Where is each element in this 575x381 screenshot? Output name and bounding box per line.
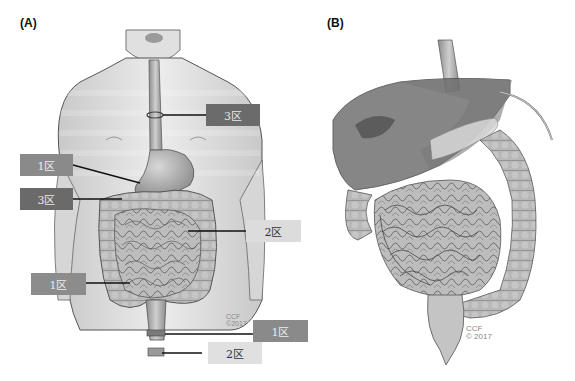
- zone-label-anus: 2区: [208, 342, 262, 364]
- intestines-a: [99, 190, 217, 356]
- organs-b: [333, 40, 552, 365]
- zone-label-colon: 1区: [31, 273, 86, 295]
- zone-label-stomach-upper: 1区: [20, 154, 73, 176]
- watermark-b: CCF © 2017: [466, 325, 492, 341]
- watermark-b-line2: © 2017: [466, 333, 492, 341]
- zone-label-stomach-lower: 3区: [20, 188, 73, 210]
- zone-label-esophagus: 3区: [206, 104, 260, 126]
- watermark-a-line1: CCF: [226, 313, 247, 320]
- zone-label-small-bowel: 2区: [246, 220, 301, 242]
- watermark-a-line2: ©2017: [226, 320, 247, 327]
- zone-label-rectum: 1区: [253, 320, 308, 342]
- watermark-a: CCF ©2017: [226, 313, 247, 327]
